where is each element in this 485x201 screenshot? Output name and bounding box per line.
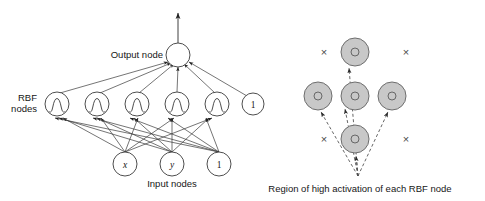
activation-center-dot (351, 92, 359, 100)
activation-circle-left (304, 82, 332, 110)
input-node-row: x y 1 (113, 152, 231, 176)
activation-circle-right (378, 82, 406, 110)
left-network-group: Output node (11, 13, 264, 189)
input-nodes-label: Input nodes (147, 178, 197, 189)
activation-circle-center (341, 82, 369, 110)
edge-y-rbf5 (172, 118, 209, 152)
rbf-node-3 (125, 92, 149, 116)
input-node-y: y (160, 152, 184, 176)
activation-center-dot (351, 135, 359, 143)
output-node (166, 13, 190, 67)
input-node-label-bias: 1 (217, 160, 222, 170)
rbf-node-row: 1 (45, 92, 264, 116)
output-node-circle (166, 43, 190, 67)
rbf-node-4 (165, 92, 189, 116)
rbf-bias-label: 1 (251, 100, 256, 110)
x-mark-icon-top-left: × (321, 46, 327, 58)
input-node-label-x: x (122, 160, 128, 170)
rbf-node-circle (125, 92, 149, 116)
rbf-node-circle (165, 92, 189, 116)
activation-circle-top (341, 38, 369, 66)
rbf-node-5 (205, 92, 229, 116)
rbf-node-1 (45, 92, 69, 116)
activation-circles (304, 38, 406, 153)
input-node-label-y: y (169, 160, 175, 170)
x-mark-icon-bottom-right: × (403, 133, 409, 145)
edge-bias-rbf1 (55, 118, 219, 152)
input-node-x: x (113, 152, 137, 176)
activation-center-dot (388, 92, 396, 100)
rbf-nodes-label-line1: RBF (18, 92, 37, 103)
right-activation-group: × × × × Region of high activation of eac… (268, 38, 451, 194)
rbf-to-output-edges (60, 62, 247, 96)
edge-rbf2-output (100, 63, 171, 93)
edge-bias-rbf3 (130, 118, 219, 152)
x-mark-icon-top-right: × (403, 46, 409, 58)
edge-y-rbf2 (97, 118, 172, 152)
edge-rbf1-output (60, 62, 168, 93)
x-mark-icon-bottom-left: × (321, 133, 327, 145)
rbf-nodes-label-line2: nodes (11, 103, 37, 114)
edge-rbf4-output (177, 67, 178, 92)
rbf-node-2 (85, 92, 109, 116)
output-node-label: Output node (111, 49, 163, 60)
input-node-bias: 1 (207, 152, 231, 176)
figure-rbf-network: Output node (0, 0, 485, 201)
activation-circle-bottom (341, 125, 369, 153)
edge-rbfbias-output (189, 62, 247, 96)
rbf-node-circle (85, 92, 109, 116)
edge-bias-rbf5 (206, 118, 219, 152)
rbf-node-circle (45, 92, 69, 116)
edge-rbf3-output (139, 64, 174, 93)
diagram-canvas: Output node (0, 0, 485, 201)
input-to-rbf-edges (55, 118, 219, 152)
activation-center-dot (351, 48, 359, 56)
rbf-node-circle (205, 92, 229, 116)
rbf-node-bias: 1 (242, 93, 264, 115)
activation-region-caption: Region of high activation of each RBF no… (268, 183, 451, 194)
activation-center-dot (314, 92, 322, 100)
